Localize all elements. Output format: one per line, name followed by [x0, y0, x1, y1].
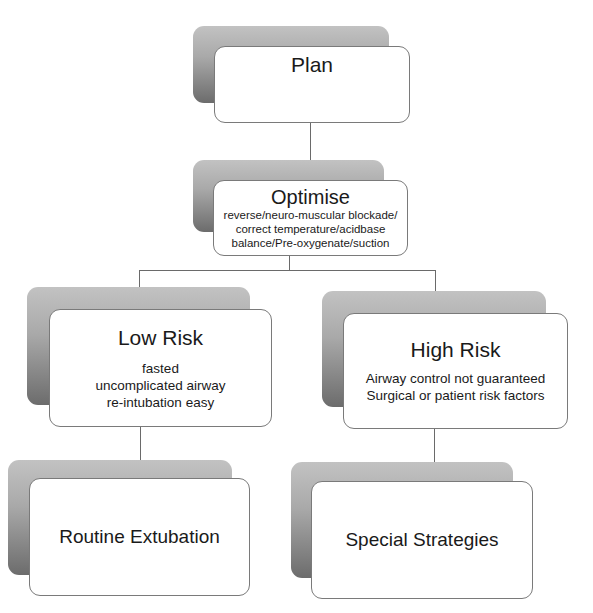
- connector-to-high-risk: [435, 270, 436, 291]
- optimise-line-3: balance/Pre-oxygenate/suction: [232, 236, 390, 250]
- special-strategies-node: Special Strategies: [311, 481, 533, 599]
- optimise-line-1: reverse/neuro-muscular blockade/: [224, 208, 398, 222]
- low-risk-node: Low Risk fasted uncomplicated airway re-…: [49, 309, 272, 427]
- high-risk-line-1: Airway control not guaranteed: [366, 370, 545, 387]
- special-title: Special Strategies: [345, 528, 498, 552]
- optimise-title: Optimise: [271, 186, 350, 208]
- low-risk-line-3: re-intubation easy: [107, 394, 214, 411]
- optimise-node: Optimise reverse/neuro-muscular blockade…: [213, 180, 408, 256]
- high-risk-node: High Risk Airway control not guaranteed …: [343, 313, 568, 429]
- low-risk-line-1: fasted: [142, 360, 179, 377]
- plan-node: Plan: [214, 46, 410, 123]
- connector-horizontal-branch: [139, 270, 436, 271]
- high-risk-title: High Risk: [411, 338, 501, 362]
- low-risk-line-2: uncomplicated airway: [96, 377, 226, 394]
- high-risk-line-2: Surgical or patient risk factors: [367, 387, 545, 404]
- routine-extubation-node: Routine Extubation: [29, 478, 250, 596]
- optimise-line-2: correct temperature/acidbase: [236, 222, 386, 236]
- plan-title: Plan: [291, 53, 333, 77]
- routine-title: Routine Extubation: [59, 525, 220, 549]
- connector-to-low-risk: [139, 270, 140, 287]
- low-risk-title: Low Risk: [118, 326, 203, 350]
- connector-high-to-special: [434, 429, 435, 462]
- connector-low-to-routine: [140, 427, 141, 460]
- connector-optimise-down: [289, 256, 290, 270]
